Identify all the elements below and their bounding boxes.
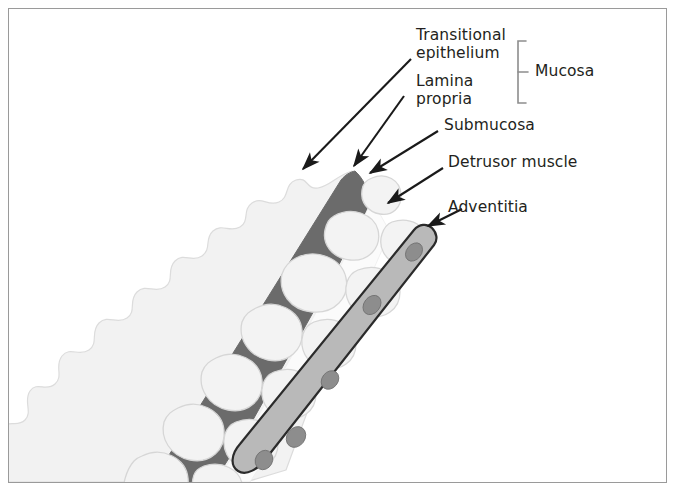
figure-container: Transitional epithelium Lamina propria M… — [0, 0, 677, 493]
label-mucosa: Mucosa — [535, 63, 594, 81]
label-submucosa: Submucosa — [444, 117, 535, 135]
label-detrusor-muscle: Detrusor muscle — [448, 154, 577, 172]
arrow-submucosa — [370, 131, 438, 173]
label-lamina-propria: Lamina propria — [416, 73, 473, 108]
arrow-transitional-epithelium — [303, 59, 411, 169]
label-adventitia: Adventitia — [448, 199, 528, 217]
mucosa-bracket — [518, 41, 528, 103]
label-transitional-epithelium: Transitional epithelium — [416, 27, 506, 62]
